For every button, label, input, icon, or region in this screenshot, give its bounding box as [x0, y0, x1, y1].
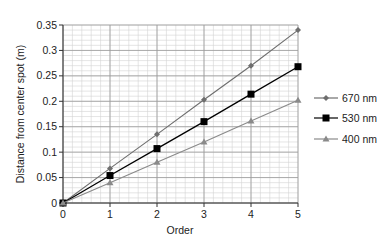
- x-tick-label: 0: [60, 208, 66, 220]
- x-tick-label: 5: [295, 208, 301, 220]
- legend-label: 670 nm: [342, 92, 377, 104]
- legend-item: 400 nm: [314, 133, 377, 145]
- y-tick-label: 0.1: [42, 146, 57, 158]
- y-axis-title: Distance from center spot (m): [14, 45, 26, 183]
- legend: 670 nm530 nm400 nm: [314, 92, 377, 145]
- series-400-nm: [60, 97, 302, 206]
- y-axis-ticks: 00.050.10.150.20.250.30.35: [37, 19, 63, 209]
- y-tick-label: 0.3: [42, 44, 57, 56]
- x-axis-title: Order: [167, 224, 194, 236]
- legend-item: 530 nm: [314, 112, 377, 124]
- x-tick-label: 2: [154, 208, 160, 220]
- line-chart: 00.050.10.150.20.250.30.35 012345 Distan…: [0, 0, 391, 246]
- minor-gridlines: [63, 25, 298, 203]
- y-tick-label: 0.15: [37, 120, 58, 132]
- y-tick-label: 0: [51, 197, 57, 209]
- y-tick-label: 0.2: [42, 95, 57, 107]
- y-tick-label: 0.05: [37, 171, 58, 183]
- legend-label: 530 nm: [342, 112, 377, 124]
- y-tick-label: 0.35: [37, 19, 58, 31]
- x-tick-label: 3: [201, 208, 207, 220]
- x-tick-label: 4: [248, 208, 254, 220]
- series-530-nm: [60, 63, 302, 206]
- major-gridlines: [63, 25, 298, 203]
- legend-item: 670 nm: [314, 92, 377, 104]
- x-axis-ticks: 012345: [60, 203, 301, 220]
- legend-label: 400 nm: [342, 133, 377, 145]
- y-tick-label: 0.25: [37, 69, 58, 81]
- axes: [63, 25, 298, 203]
- x-tick-label: 1: [107, 208, 113, 220]
